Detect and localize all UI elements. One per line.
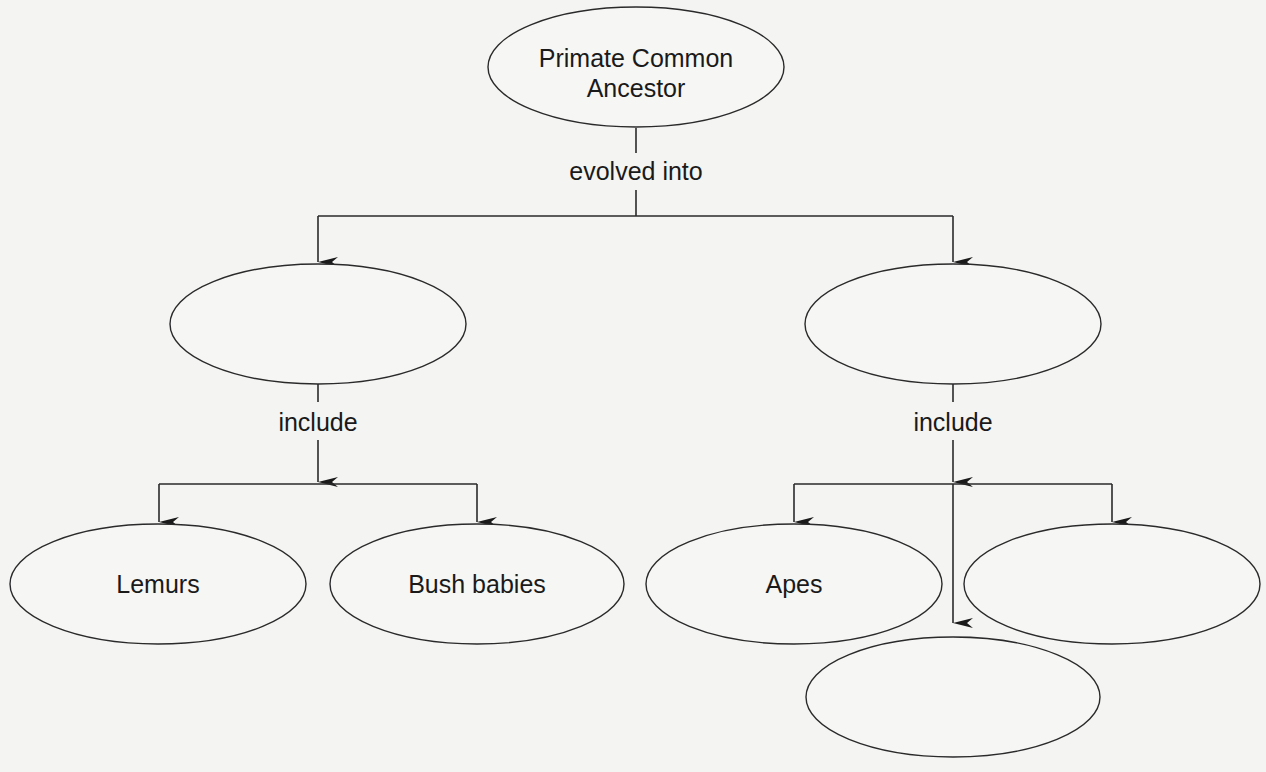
link-label-left-include: include bbox=[278, 408, 357, 436]
link-label-evolved-into: evolved into bbox=[569, 157, 702, 185]
edge-root-to-groups bbox=[318, 128, 953, 262]
link-label-right-include: include bbox=[913, 408, 992, 436]
node-root: Primate Common Ancestor bbox=[488, 7, 784, 127]
primate-concept-map: evolved into include include Primate Com… bbox=[0, 0, 1266, 772]
node-right-blank[interactable] bbox=[964, 524, 1260, 644]
edge-left-include bbox=[159, 384, 477, 522]
node-group-left[interactable] bbox=[170, 264, 466, 384]
node-bush-babies-label: Bush babies bbox=[408, 570, 546, 598]
node-root-line2: Ancestor bbox=[587, 74, 686, 102]
node-lemurs-label: Lemurs bbox=[116, 570, 199, 598]
node-lemurs: Lemurs bbox=[10, 524, 306, 644]
node-apes-label: Apes bbox=[766, 570, 823, 598]
node-apes: Apes bbox=[646, 524, 942, 644]
node-root-line1: Primate Common bbox=[539, 44, 734, 72]
node-bottom-blank[interactable] bbox=[806, 637, 1100, 757]
node-group-right[interactable] bbox=[805, 264, 1101, 384]
node-bush-babies: Bush babies bbox=[330, 524, 624, 644]
